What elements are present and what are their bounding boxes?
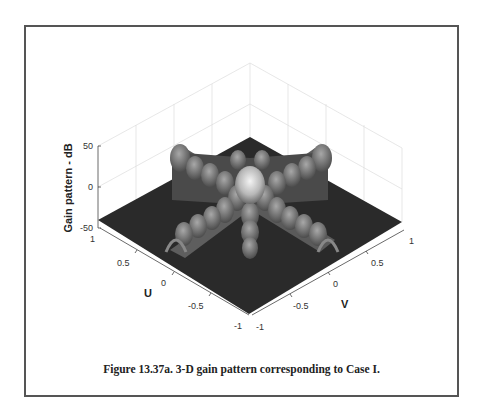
u-tick-1: 1: [90, 234, 95, 244]
z-tick-neg50: -50: [80, 223, 93, 233]
u-tick-neg1: -1: [234, 321, 242, 331]
surface-plot: 50 0 -50 Gain pattern - dB 1 0.5 0 -0.5 …: [0, 0, 484, 416]
main-lobe-peak: [235, 166, 265, 204]
u-tick-neg0.5: -0.5: [188, 301, 204, 311]
v-tick-0: 0: [333, 279, 338, 289]
v-tick-0.5: 0.5: [371, 258, 384, 268]
v-tick-neg0.5: -0.5: [293, 301, 309, 311]
z-tick-0: 0: [88, 182, 93, 192]
u-tick-0.5: 0.5: [117, 258, 130, 268]
z-axis-label: Gain pattern - dB: [62, 143, 74, 232]
z-tick-50: 50: [83, 141, 93, 151]
z-axis: [98, 146, 101, 228]
v-tick-1: 1: [409, 236, 414, 246]
u-axis-label: U: [144, 287, 152, 299]
u-tick-0: 0: [161, 278, 166, 288]
v-axis-label: V: [341, 298, 349, 310]
v-tick-neg1: -1: [256, 322, 264, 332]
figure-caption: Figure 13.37a. 3-D gain pattern correspo…: [24, 363, 459, 375]
